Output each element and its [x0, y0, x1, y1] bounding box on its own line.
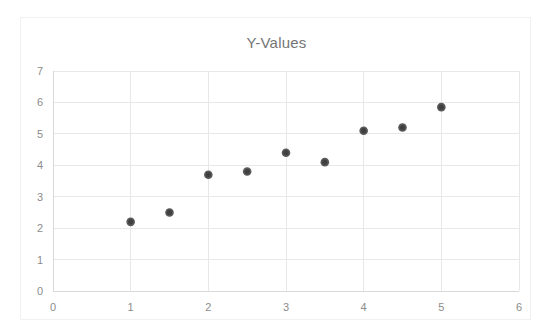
x-axis-tick-label: 5 [438, 301, 444, 313]
y-axis-tick-label: 6 [37, 96, 43, 108]
data-point-core [128, 219, 133, 224]
y-axis-tick-label: 7 [37, 65, 43, 77]
data-point-core [283, 150, 288, 155]
data-point[interactable] [165, 208, 174, 217]
data-point[interactable] [204, 170, 213, 179]
x-axis-tick-label: 2 [205, 301, 211, 313]
data-point[interactable] [359, 126, 368, 135]
data-point-core [167, 210, 172, 215]
scatter-plot: 01234567 0123456 [21, 18, 532, 321]
data-point[interactable] [126, 218, 135, 227]
x-axis-tick-label: 0 [50, 301, 56, 313]
y-axis-tick-label: 3 [37, 191, 43, 203]
data-point-core [245, 169, 250, 174]
data-point[interactable] [321, 158, 330, 167]
x-axis-tick-label: 3 [283, 301, 289, 313]
vertical-gridlines [53, 71, 519, 291]
y-axis-tick-labels: 01234567 [37, 65, 43, 297]
data-point-core [361, 128, 366, 133]
data-point-core [206, 172, 211, 177]
data-point-core [322, 160, 327, 165]
y-axis-tick-label: 0 [37, 285, 43, 297]
x-axis-tick-label: 1 [128, 301, 134, 313]
data-point-core [400, 125, 405, 130]
y-axis-tick-label: 5 [37, 128, 43, 140]
y-axis-tick-label: 1 [37, 254, 43, 266]
data-point[interactable] [398, 123, 407, 132]
chart-container: Y-Values 01234567 0123456 [20, 17, 531, 320]
data-point[interactable] [243, 167, 252, 176]
data-point-core [439, 105, 444, 110]
data-point[interactable] [282, 148, 291, 157]
y-axis-tick-label: 2 [37, 222, 43, 234]
x-axis-tick-label: 6 [516, 301, 522, 313]
data-point[interactable] [437, 103, 446, 112]
x-axis-tick-labels: 0123456 [50, 301, 522, 313]
y-axis-tick-label: 4 [37, 159, 43, 171]
x-axis-tick-label: 4 [361, 301, 367, 313]
